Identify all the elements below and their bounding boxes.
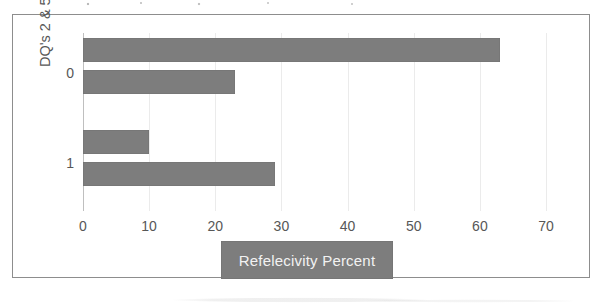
bar-dq1-series2[interactable] bbox=[83, 162, 275, 186]
x-tick-10: 10 bbox=[141, 219, 157, 233]
chart-frame: DQ's 2 & 5 0 1 0 10 20 30 40 50 60 70 bbox=[12, 14, 590, 278]
y-category-label-0: 0 bbox=[66, 66, 74, 80]
x-tick-60: 60 bbox=[472, 219, 488, 233]
bar-dq0-series1[interactable] bbox=[83, 38, 500, 62]
x-tick-0: 0 bbox=[79, 219, 87, 233]
scan-artifact-top bbox=[0, 0, 605, 9]
bar-dq1-series1[interactable] bbox=[83, 130, 149, 154]
x-tick-30: 30 bbox=[274, 219, 290, 233]
x-axis-ticks: 0 10 20 30 40 50 60 70 bbox=[83, 219, 546, 241]
x-tick-20: 20 bbox=[208, 219, 224, 233]
bar-dq0-series2[interactable] bbox=[83, 70, 235, 94]
gridline bbox=[546, 33, 547, 211]
legend-box[interactable]: Refelecivity Percent bbox=[221, 241, 393, 279]
x-tick-50: 50 bbox=[406, 219, 422, 233]
x-tick-40: 40 bbox=[340, 219, 356, 233]
y-axis-title: DQ's 2 & 5 bbox=[37, 0, 53, 67]
x-tick-70: 70 bbox=[538, 219, 554, 233]
legend-label: Refelecivity Percent bbox=[239, 252, 376, 269]
plot-area: 0 1 bbox=[83, 33, 546, 211]
y-category-label-1: 1 bbox=[66, 156, 74, 170]
scan-artifact-bottom bbox=[0, 294, 605, 306]
